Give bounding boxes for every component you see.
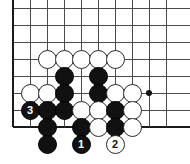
black-stone: [106, 101, 125, 120]
white-stone: [21, 84, 40, 103]
black-stone: [55, 67, 74, 86]
grid-line-horizontal: [13, 25, 190, 26]
black-stone: [38, 135, 57, 154]
white-stone: [72, 50, 91, 69]
white-stone: [89, 50, 108, 69]
stone-move-number: 2: [112, 138, 118, 149]
white-stone-move-2: 2: [106, 135, 125, 154]
white-stone: [123, 118, 142, 137]
black-stone: [89, 67, 108, 86]
black-stone-move-1: 1: [72, 135, 91, 154]
black-stone: [55, 84, 74, 103]
stone-move-number: 1: [78, 138, 84, 149]
white-stone: [89, 118, 108, 137]
hoshi-right-icon: [146, 90, 152, 96]
grid-line-horizontal: [13, 8, 190, 9]
black-stone: [106, 118, 125, 137]
white-stone: [106, 50, 125, 69]
black-stone-move-3: 3: [21, 101, 40, 120]
grid-line-vertical: [149, 0, 150, 127]
white-stone: [89, 101, 108, 120]
go-board-diagram: 312: [0, 0, 190, 164]
white-stone: [38, 84, 57, 103]
stone-move-number: 3: [27, 104, 33, 115]
grid-line-horizontal: [13, 42, 190, 43]
white-stone: [72, 101, 91, 120]
white-stone: [55, 50, 74, 69]
black-stone: [38, 101, 57, 120]
black-stone: [38, 118, 57, 137]
grid-line-vertical: [166, 0, 167, 127]
black-stone: [89, 84, 108, 103]
white-stone: [123, 101, 142, 120]
white-stone: [38, 50, 57, 69]
white-stone: [123, 84, 142, 103]
white-stone: [106, 84, 125, 103]
black-stone: [55, 101, 74, 120]
grid-line-vertical: [12, 0, 14, 127]
black-stone: [72, 118, 91, 137]
